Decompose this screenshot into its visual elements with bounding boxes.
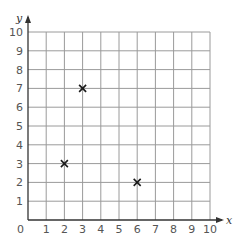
y-tick-label: 5 [16,120,23,133]
x-tick-label: 10 [203,223,217,236]
y-tick-label: 1 [16,195,23,208]
x-tick-label: 8 [170,223,177,236]
x-axis-arrow-icon [216,217,224,223]
x-tick-label: 2 [61,223,68,236]
y-tick-label: 8 [16,64,23,77]
coordinate-grid-chart: 1234567891012345678910 x y 0 [0,0,239,245]
x-tick-label: 1 [43,223,50,236]
y-tick-label: 2 [16,176,23,189]
y-tick-label: 10 [9,26,23,39]
axes [25,15,224,223]
y-tick-label: 3 [16,158,23,171]
x-tick-label: 6 [134,223,141,236]
y-axis-arrow-icon [25,15,31,23]
grid-lines [28,32,210,220]
x-tick-label: 9 [188,223,195,236]
y-tick-label: 6 [16,101,23,114]
y-tick-label: 7 [16,82,23,95]
x-tick-label: 5 [116,223,123,236]
x-axis-label: x [226,214,233,227]
tick-labels: 1234567891012345678910 [9,26,217,236]
x-tick-label: 7 [152,223,159,236]
y-tick-label: 4 [16,139,23,152]
x-tick-label: 4 [97,223,104,236]
y-tick-label: 9 [16,45,23,58]
x-tick-label: 3 [79,223,86,236]
y-axis-label: y [15,12,23,25]
origin-label: 0 [17,223,24,236]
